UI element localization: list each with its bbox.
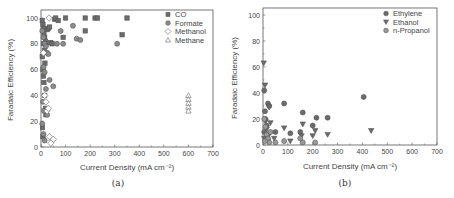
circle-marker-icon	[263, 124, 268, 129]
y-tick-label: 20	[252, 116, 260, 123]
y-tick-label: 100	[248, 12, 260, 19]
square-marker-icon	[120, 33, 124, 37]
circle-marker-icon	[313, 140, 318, 145]
circle-marker-icon	[43, 86, 48, 91]
circle-marker-icon	[268, 130, 273, 135]
circle-marker-icon	[273, 140, 278, 145]
series-methane	[186, 93, 191, 113]
y-tick-label: 40	[252, 90, 260, 97]
triangle-down-marker-icon	[288, 139, 293, 144]
circle-marker-icon	[115, 41, 120, 46]
legend: COFormateMethanolMethane	[165, 10, 206, 45]
x-axis-label: Current Density (mA cm⁻²)	[80, 163, 175, 172]
panel-caption: (b)	[339, 178, 352, 188]
x-tick-label: 100	[60, 150, 72, 157]
circle-marker-icon	[310, 123, 315, 128]
circle-marker-icon	[262, 117, 267, 122]
panel-caption: (a)	[112, 178, 124, 188]
y-tick-label: 20	[30, 118, 38, 125]
legend-label: n-Propanol	[393, 26, 430, 35]
triangle-down-marker-icon	[281, 126, 286, 131]
y-tick-label: 0	[256, 142, 260, 149]
x-tick-label: 300	[332, 148, 344, 155]
x-tick-label: 700	[207, 150, 219, 157]
circle-marker-icon	[41, 132, 46, 137]
x-tick-label: 0	[39, 150, 43, 157]
circle-marker-icon	[300, 140, 305, 145]
x-axis-ticks: 0100200300400500600700	[39, 145, 219, 158]
square-marker-icon	[56, 18, 60, 22]
triangle-down-marker-icon	[384, 20, 389, 25]
square-marker-icon	[83, 16, 87, 20]
x-tick-label: 400	[357, 148, 369, 155]
x-tick-label: 200	[84, 150, 96, 157]
panel-a-chart: 0100200300400500600700020406080100Curren…	[6, 10, 219, 188]
y-tick-label: 80	[30, 40, 38, 47]
legend-label: Methane	[175, 36, 204, 45]
circle-marker-icon	[58, 28, 63, 33]
y-axis-label: Faradaic Efficiency (%)	[230, 37, 239, 119]
y-axis-label: Faradaic Efficiency (%)	[6, 39, 15, 121]
x-tick-label: 500	[381, 148, 393, 155]
square-marker-icon	[63, 16, 67, 20]
x-axis-ticks: 0100200300400500600700	[261, 143, 443, 156]
circle-marker-icon	[262, 88, 267, 93]
circle-marker-icon	[46, 52, 51, 57]
square-marker-icon	[50, 42, 54, 46]
panel-b-chart: 0100200300400500600700020406080100Curren…	[230, 8, 443, 188]
x-tick-label: 200	[307, 148, 319, 155]
circle-marker-icon	[262, 139, 267, 144]
circle-marker-icon	[51, 84, 56, 89]
y-tick-label: 60	[252, 64, 260, 71]
circle-marker-icon	[41, 65, 46, 70]
x-axis-label: Current Density (mA cm⁻²)	[303, 162, 398, 171]
circle-marker-icon	[300, 110, 305, 115]
triangle-down-marker-icon	[300, 122, 305, 127]
y-tick-label: 40	[30, 92, 38, 99]
circle-marker-icon	[282, 101, 287, 106]
legend-item: n-Propanol	[384, 26, 430, 35]
circle-marker-icon	[70, 23, 75, 28]
circle-marker-icon	[47, 77, 52, 82]
square-marker-icon	[83, 29, 87, 33]
circle-marker-icon	[40, 121, 45, 126]
x-tick-label: 0	[261, 148, 265, 155]
circle-marker-icon	[384, 28, 389, 33]
x-tick-label: 600	[183, 150, 195, 157]
circle-marker-icon	[288, 131, 293, 136]
circle-marker-icon	[78, 37, 83, 42]
x-tick-label: 500	[158, 150, 170, 157]
triangle-down-marker-icon	[368, 129, 373, 134]
y-tick-label: 60	[30, 66, 38, 73]
diamond-marker-icon	[165, 29, 171, 35]
circle-marker-icon	[384, 11, 389, 16]
y-tick-label: 80	[252, 38, 260, 45]
y-tick-label: 100	[26, 15, 38, 22]
figure: 0100200300400500600700020406080100Curren…	[0, 0, 454, 198]
circle-marker-icon	[361, 94, 366, 99]
circle-marker-icon	[54, 41, 59, 46]
triangle-marker-icon	[166, 38, 171, 43]
triangle-down-marker-icon	[310, 134, 315, 139]
triangle-down-marker-icon	[313, 129, 318, 134]
circle-marker-icon	[43, 44, 48, 49]
square-marker-icon	[95, 16, 99, 20]
circle-marker-icon	[42, 138, 47, 143]
legend-item: Methane	[166, 36, 205, 45]
square-marker-icon	[125, 16, 129, 20]
circle-marker-icon	[273, 130, 278, 135]
series-ethylene	[262, 88, 366, 141]
square-marker-icon	[42, 80, 46, 84]
x-tick-label: 300	[109, 150, 121, 157]
x-tick-label: 600	[406, 148, 418, 155]
diamond-marker-icon	[46, 15, 52, 21]
triangle-down-marker-icon	[261, 61, 266, 66]
triangle-down-marker-icon	[325, 132, 330, 137]
legend: EthyleneEthanoln-Propanol	[384, 9, 431, 35]
circle-marker-icon	[41, 35, 46, 40]
series-co	[40, 16, 129, 139]
circle-marker-icon	[42, 70, 47, 75]
circle-marker-icon	[314, 115, 319, 120]
x-tick-label: 700	[431, 148, 443, 155]
x-tick-label: 400	[133, 150, 145, 157]
